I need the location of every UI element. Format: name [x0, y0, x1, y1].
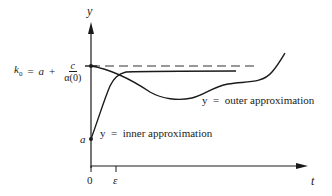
- t-axis-label: t: [311, 175, 314, 187]
- inner-approximation-label: y = inner approximation: [100, 128, 212, 139]
- tick-label-epsilon: ε: [113, 175, 117, 186]
- k0-symbol: k0: [14, 64, 22, 78]
- x-axis-arrow-icon: [296, 163, 308, 169]
- y-axis-arrow-icon: [88, 22, 94, 34]
- plus-sign: +: [49, 66, 55, 77]
- k-subscript: 0: [19, 70, 23, 78]
- fraction-numerator: c: [69, 60, 77, 72]
- a-level-label: a: [80, 134, 86, 145]
- outer-approximation-curve: [91, 53, 285, 99]
- y-axis-label: y: [87, 5, 92, 17]
- outer-approximation-label: y = outer approximation: [202, 95, 314, 106]
- tick-label-zero: 0: [87, 175, 93, 186]
- fraction: c α(0): [64, 60, 81, 84]
- k0-point: [89, 64, 93, 68]
- k0-equation-label: k0 = a + c α(0): [14, 59, 81, 83]
- a-point: [89, 137, 93, 141]
- a-term: a: [39, 66, 45, 77]
- fraction-denominator: α(0): [64, 72, 81, 84]
- boundary-layer-diagram: y t 0 ε a k0 = a + c α(0) y = outer appr…: [0, 0, 332, 196]
- equals-sign: =: [27, 66, 33, 77]
